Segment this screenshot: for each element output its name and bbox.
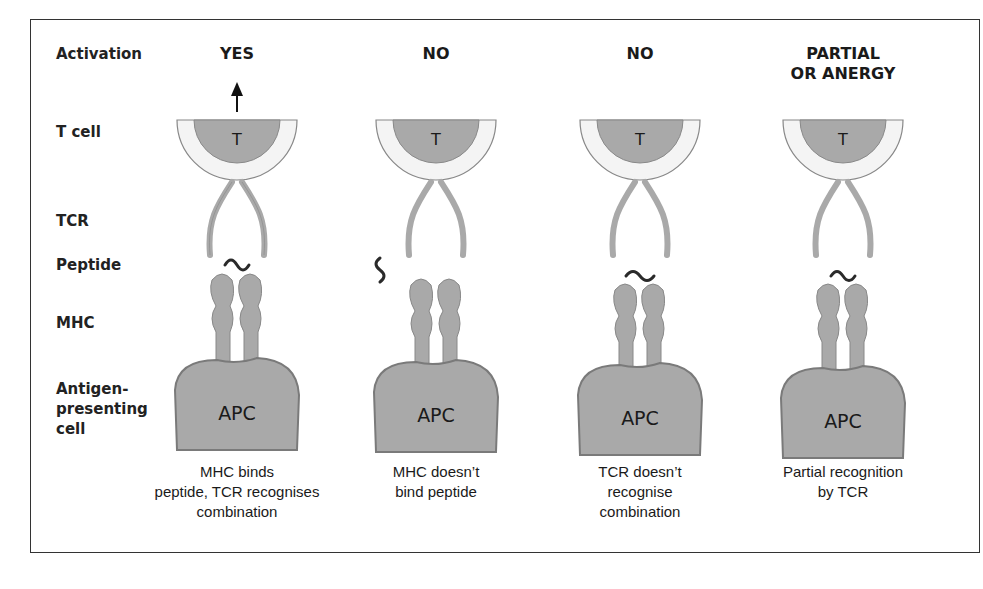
t-cell-label: T: [540, 130, 740, 149]
t-cell-label: T: [743, 130, 943, 149]
tcr-receptor: [209, 182, 264, 255]
caption: Partial recognitionby TCR: [723, 462, 963, 502]
apc-label: APC: [137, 402, 337, 424]
row-label-apc-2: presenting: [56, 400, 148, 418]
peptide: [831, 272, 855, 281]
peptide: [225, 260, 249, 270]
peptide: [626, 272, 654, 281]
scenario-no-tcr: NO T APC TCR doesn’trecognisecombination: [540, 0, 740, 560]
t-cell-label: T: [137, 130, 337, 149]
scenario-yes: YES T APC MHC bindspeptide, TCR recognis…: [137, 0, 337, 560]
tcell-mhc-diagram: [336, 0, 536, 460]
apc-label: APC: [336, 404, 536, 426]
apc-label: APC: [743, 410, 943, 432]
row-label-mhc: MHC: [56, 314, 95, 332]
row-label-activation: Activation: [56, 45, 142, 63]
tcell-mhc-diagram: [540, 0, 740, 460]
scenario-partial: PARTIALOR ANERGY T APC Partial recogniti…: [743, 0, 943, 560]
row-label-apc-1: Antigen-: [56, 380, 128, 398]
peptide: [376, 258, 384, 282]
tcell-mhc-diagram: [743, 0, 943, 460]
row-label-apc-3: cell: [56, 420, 85, 438]
row-label-tcr: TCR: [56, 212, 89, 230]
scenario-no-mhc: NO T APC MHC doesn’tbind peptide: [336, 0, 536, 560]
tcr-outline: [209, 182, 264, 255]
row-label-t-cell: T cell: [56, 123, 101, 141]
t-cell-label: T: [336, 130, 536, 149]
activation-arrow-icon: [231, 82, 243, 112]
row-label-peptide: Peptide: [56, 256, 121, 274]
apc-label: APC: [540, 407, 740, 429]
tcell-mhc-diagram: [137, 0, 337, 460]
